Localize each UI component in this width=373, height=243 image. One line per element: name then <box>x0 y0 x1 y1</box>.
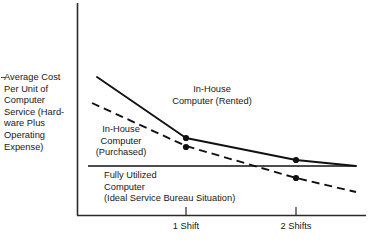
x-tick-label-1-shift: 1 Shift <box>158 221 214 233</box>
data-point-purchased-1-shift <box>183 144 189 150</box>
annotation-fully-utilized: Fully Utilized Computer (Ideal Service B… <box>104 170 324 205</box>
data-point-rented-2-shifts <box>293 157 299 163</box>
chart-figure: Average Cost Per Unit of Computer Servic… <box>0 0 373 243</box>
data-point-rented-1-shift <box>183 135 189 141</box>
plot-area <box>0 0 373 243</box>
x-tick-label-2-shifts: 2 Shifts <box>268 221 324 233</box>
annotation-rented: In-House Computer (Rented) <box>150 84 274 107</box>
annotation-purchased: In-House Computer (Purchased) <box>82 124 160 159</box>
